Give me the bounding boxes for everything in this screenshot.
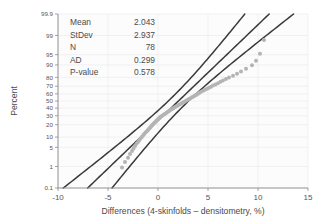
data-point bbox=[126, 156, 130, 160]
probability-plot-figure: 99.99995908070605040302010510.1 -10-5051… bbox=[0, 0, 322, 224]
y-tick-label: 0.1 bbox=[44, 184, 53, 191]
data-point bbox=[250, 63, 254, 67]
y-tick-label: 40 bbox=[46, 104, 53, 111]
data-point bbox=[258, 52, 262, 56]
data-point bbox=[262, 38, 266, 42]
x-tick-label: 0 bbox=[156, 193, 161, 202]
x-tick-label: -5 bbox=[104, 193, 112, 202]
x-axis-ticks: -10-5051015 bbox=[52, 188, 313, 202]
x-axis-title: Differences (4-skinfolds – densitometry,… bbox=[101, 206, 264, 216]
y-tick-label: 5 bbox=[50, 144, 54, 151]
y-axis-ticks: 99.99995908070605040302010510.1 bbox=[41, 10, 58, 191]
x-tick-label: 10 bbox=[254, 193, 263, 202]
y-tick-label: 10 bbox=[46, 133, 53, 140]
y-tick-label: 70 bbox=[46, 82, 53, 89]
data-point bbox=[231, 74, 235, 78]
y-tick-label: 99 bbox=[46, 32, 53, 39]
y-axis-title: Percent bbox=[9, 86, 19, 116]
y-tick-label: 50 bbox=[46, 97, 53, 104]
data-point bbox=[227, 75, 231, 79]
y-tick-label: 30 bbox=[46, 112, 53, 119]
stat-label: P-value bbox=[70, 67, 99, 77]
data-point bbox=[120, 166, 124, 170]
data-point bbox=[254, 59, 258, 63]
data-point bbox=[244, 67, 248, 71]
y-tick-label: 99.9 bbox=[41, 10, 54, 17]
y-tick-label: 90 bbox=[46, 61, 53, 68]
stat-label: AD bbox=[70, 55, 82, 65]
probability-plot-canvas: 99.99995908070605040302010510.1 -10-5051… bbox=[0, 0, 322, 224]
y-tick-label: 60 bbox=[46, 90, 53, 97]
data-point bbox=[235, 72, 239, 76]
stat-value: 78 bbox=[146, 42, 156, 52]
x-tick-label: 15 bbox=[304, 193, 313, 202]
stat-value: 0.299 bbox=[134, 55, 155, 65]
stat-label: Mean bbox=[70, 17, 91, 27]
data-point bbox=[239, 69, 243, 73]
y-tick-label: 80 bbox=[46, 74, 53, 81]
stat-value: 0.578 bbox=[134, 67, 155, 77]
y-tick-label: 1 bbox=[50, 163, 54, 170]
x-tick-label: 5 bbox=[206, 193, 211, 202]
stat-value: 2.937 bbox=[134, 30, 155, 40]
x-tick-label: -10 bbox=[52, 193, 64, 202]
stat-label: StDev bbox=[70, 30, 94, 40]
stat-value: 2.043 bbox=[134, 17, 155, 27]
y-tick-label: 20 bbox=[46, 121, 53, 128]
y-tick-label: 95 bbox=[46, 51, 53, 58]
data-point bbox=[123, 160, 127, 164]
stat-label: N bbox=[70, 42, 76, 52]
